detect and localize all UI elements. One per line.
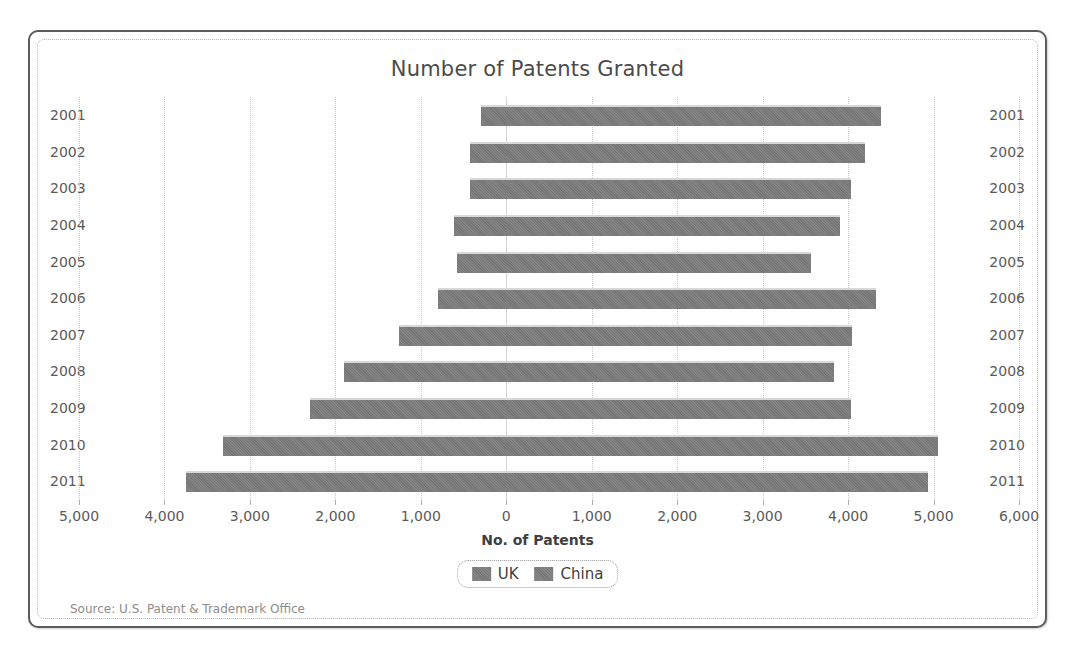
bar-uk: [506, 142, 865, 163]
legend-swatch-icon: [472, 567, 491, 581]
bar-china: [310, 398, 507, 419]
x-tick-label: 2,000: [657, 508, 697, 524]
year-label-right: 2001: [973, 97, 1025, 134]
year-label-right: 2004: [973, 207, 1025, 244]
bar-uk: [506, 252, 811, 273]
chart-title: Number of Patents Granted: [30, 57, 1045, 81]
year-label-right: 2008: [973, 353, 1025, 390]
bar-row: [79, 207, 1019, 244]
year-label-right: 2002: [973, 134, 1025, 171]
bar-uk: [506, 105, 880, 126]
bar-row: [79, 390, 1019, 427]
year-label-right: 2006: [973, 280, 1025, 317]
x-tick-label: 5,000: [59, 508, 99, 524]
bar-row: [79, 134, 1019, 171]
x-tick-mark: [164, 500, 165, 505]
x-tick-label: 4,000: [144, 508, 184, 524]
bar-row: [79, 427, 1019, 464]
chart-container: Number of Patents Granted 20012002200320…: [28, 30, 1047, 628]
legend-item: UK: [472, 565, 519, 583]
x-axis-title: No. of Patents: [30, 532, 1045, 548]
bar-china: [457, 252, 507, 273]
bar-row: [79, 280, 1019, 317]
bar-row: [79, 170, 1019, 207]
x-tick-mark: [763, 500, 764, 505]
bar-row: [79, 317, 1019, 354]
x-tick-label: 1,000: [572, 508, 612, 524]
x-tick-label: 4,000: [828, 508, 868, 524]
legend-item: China: [534, 565, 603, 583]
x-tick-label: 2,000: [315, 508, 355, 524]
x-tick-label: 1,000: [401, 508, 441, 524]
x-tick-mark: [934, 500, 935, 505]
x-tick-mark: [421, 500, 422, 505]
x-tick-label: 6,000: [999, 508, 1039, 524]
bar-china: [186, 471, 506, 492]
bar-uk: [506, 215, 840, 236]
bar-row: [79, 97, 1019, 134]
x-tick-label: 0: [502, 508, 511, 524]
x-tick-mark: [677, 500, 678, 505]
bar-uk: [506, 398, 850, 419]
year-label-right: 2005: [973, 244, 1025, 281]
source-note: Source: U.S. Patent & Trademark Office: [70, 602, 305, 616]
bar-uk: [506, 471, 927, 492]
year-label-right: 2009: [973, 390, 1025, 427]
x-tick-label: 3,000: [230, 508, 270, 524]
x-tick-mark: [335, 500, 336, 505]
bar-china: [438, 288, 506, 309]
x-tick-label: 5,000: [913, 508, 953, 524]
bar-china: [399, 325, 506, 346]
bar-china: [470, 142, 506, 163]
bar-china: [454, 215, 506, 236]
x-tick-mark: [1019, 500, 1020, 505]
x-tick-mark: [506, 500, 507, 505]
bar-china: [223, 435, 507, 456]
bar-china: [344, 361, 506, 382]
x-axis: 5,0004,0003,0002,0001,00001,0002,0003,00…: [79, 500, 1019, 530]
legend-label: China: [560, 565, 603, 583]
year-axis-right: 2001200220032004200520062007200820092010…: [965, 97, 1035, 500]
bar-china: [481, 105, 507, 126]
x-tick-mark: [79, 500, 80, 505]
year-label-right: 2003: [973, 170, 1025, 207]
x-tick-mark: [250, 500, 251, 505]
bar-uk: [506, 435, 938, 456]
bar-uk: [506, 325, 851, 346]
x-tick-mark: [848, 500, 849, 505]
x-tick-label: 3,000: [743, 508, 783, 524]
x-tick-mark: [592, 500, 593, 505]
bar-uk: [506, 178, 850, 199]
chart-legend: UKChina: [457, 560, 619, 588]
bar-uk: [506, 288, 876, 309]
legend-label: UK: [498, 565, 519, 583]
bar-row: [79, 353, 1019, 390]
bar-row: [79, 244, 1019, 281]
year-label-right: 2007: [973, 317, 1025, 354]
legend-swatch-icon: [534, 567, 553, 581]
year-label-right: 2010: [973, 427, 1025, 464]
year-label-right: 2011: [973, 463, 1025, 500]
bar-row: [79, 463, 1019, 500]
plot-area: [79, 97, 1019, 500]
bar-uk: [506, 361, 834, 382]
bar-china: [470, 178, 506, 199]
